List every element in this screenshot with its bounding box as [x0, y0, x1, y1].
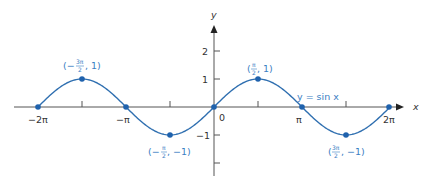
- annotation-pi-2: ( π 2 , 1): [247, 61, 273, 76]
- x-tick-label-zero: 0: [219, 112, 225, 123]
- y-tick-label-1: 1: [202, 74, 208, 85]
- x-tick-label-pi: π: [296, 114, 302, 125]
- x-tick-label-2pi: 2π: [383, 114, 395, 125]
- svg-text:(−: (−: [148, 146, 160, 157]
- annotation-neg-3pi-2: (− 3π 2 , 1): [63, 58, 101, 73]
- y-tick-label-2: 2: [202, 46, 208, 57]
- y-axis-label: y: [210, 9, 217, 20]
- x-tick-label-neg-pi: −π: [116, 114, 130, 125]
- x-tick-label-neg-2pi: −2π: [28, 114, 48, 125]
- svg-text:, −1): , −1): [341, 146, 365, 157]
- y-axis-arrow-icon: [211, 25, 218, 33]
- svg-text:2: 2: [162, 152, 166, 159]
- annotation-3pi-2: ( 3π 2 , −1): [328, 144, 365, 159]
- svg-text:π: π: [252, 61, 256, 68]
- x-axis-arrow-icon: [396, 104, 404, 111]
- svg-text:3π: 3π: [332, 144, 340, 151]
- svg-text:π: π: [162, 144, 166, 151]
- svg-text:, −1): , −1): [167, 146, 191, 157]
- svg-text:3π: 3π: [76, 58, 84, 65]
- annotation-neg-pi-2: (− π 2 , −1): [148, 144, 191, 159]
- y-tick-label-neg-1: −1: [196, 130, 210, 141]
- svg-text:2: 2: [252, 69, 256, 76]
- sine-chart: x y −2π −π 0 π 2π 2 1 −1 (−: [0, 0, 436, 188]
- svg-text:(−: (−: [63, 60, 75, 71]
- svg-text:, 1): , 1): [257, 63, 273, 74]
- svg-text:2: 2: [78, 66, 82, 73]
- svg-text:(: (: [247, 63, 251, 74]
- function-label: y = sin x: [297, 91, 339, 102]
- svg-text:2: 2: [334, 152, 338, 159]
- svg-text:, 1): , 1): [85, 60, 101, 71]
- x-axis-label: x: [412, 101, 419, 112]
